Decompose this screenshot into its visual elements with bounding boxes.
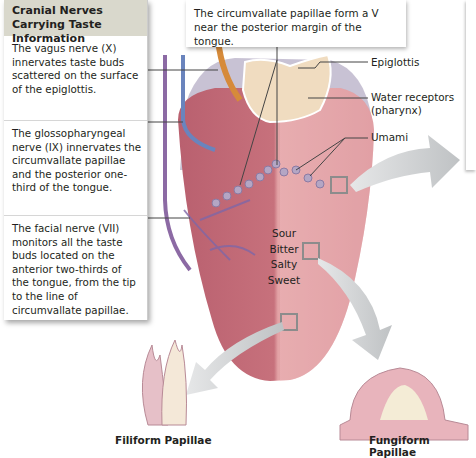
glossopharyngeal-nerve-description: The glossopharyngeal nerve (IX) innervat… xyxy=(4,121,147,216)
taste-sour: Sour xyxy=(262,226,306,242)
label-water-receptors-sub: (pharynx) xyxy=(371,104,422,117)
taste-list: Sour Bitter Salty Sweet xyxy=(262,226,306,288)
label-water-receptors: Water receptors xyxy=(371,91,454,104)
vagus-nerve-description: The vagus nerve (X) innervates taste bud… xyxy=(4,36,147,121)
caption-fungiform: Fungiform Papillae xyxy=(369,434,472,458)
taste-salty: Salty xyxy=(262,257,306,273)
filiform-papillae-illustration xyxy=(142,340,186,425)
facial-nerve-description: The facial nerve (VII) monitors all the … xyxy=(4,216,147,323)
caption-filiform: Filiform Papillae xyxy=(115,434,212,446)
cranial-nerves-panel: Cranial Nerves Carrying Taste Informatio… xyxy=(4,0,148,320)
right-panel-edge xyxy=(466,0,476,170)
label-epiglottis: Epiglottis xyxy=(371,56,419,69)
label-umami: Umami xyxy=(371,131,408,144)
taste-sweet: Sweet xyxy=(262,273,306,289)
panel-header: Cranial Nerves Carrying Taste Informatio… xyxy=(4,0,147,36)
circumvallate-callout: The circumvallate papillae form a V near… xyxy=(186,0,406,47)
taste-bitter: Bitter xyxy=(262,242,306,258)
fungiform-papillae-illustration xyxy=(340,368,468,440)
